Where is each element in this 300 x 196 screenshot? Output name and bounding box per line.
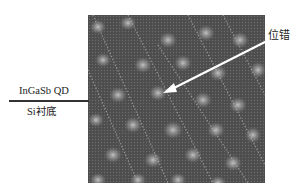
dislocation-arrow-icon [0,0,300,196]
